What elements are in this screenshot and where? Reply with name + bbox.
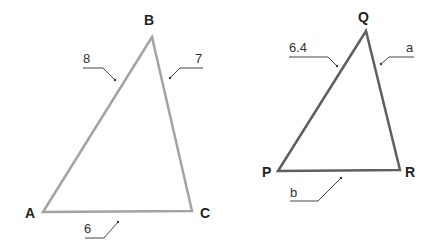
side-qr-leader <box>381 57 414 64</box>
side-ac-label: 6 <box>84 221 91 236</box>
vertex-label-p: P <box>262 164 271 180</box>
vertex-label-a: A <box>25 205 35 221</box>
side-qr-label: a <box>406 40 414 55</box>
side-qr-leader-dot <box>380 63 382 65</box>
side-pq-leader <box>289 57 337 66</box>
side-qr-callout: a <box>380 40 414 65</box>
side-bc-leader <box>170 68 203 78</box>
side-pr-callout: b <box>290 177 342 201</box>
side-ac-callout: 6 <box>84 221 119 238</box>
side-pr-label: b <box>290 185 297 200</box>
side-bc-callout: 7 <box>169 51 203 79</box>
triangle-pqr: P Q R 6.4 a b <box>262 9 415 201</box>
vertex-label-r: R <box>405 164 415 180</box>
side-ab-label: 8 <box>83 51 90 66</box>
vertex-label-q: Q <box>358 9 369 25</box>
side-ac-leader-dot <box>117 221 119 223</box>
side-pr-leader <box>290 178 341 201</box>
side-pr-leader-dot <box>340 177 342 179</box>
vertex-label-c: C <box>200 205 210 221</box>
side-pq-callout: 6.4 <box>289 40 338 67</box>
triangle-abc: A B C 8 7 6 <box>25 12 210 238</box>
side-bc-leader-dot <box>169 77 171 79</box>
triangle-abc-outline <box>43 37 192 212</box>
diagram-canvas: A B C 8 7 6 P Q R 6.4 <box>0 0 436 246</box>
side-ab-leader <box>83 68 115 80</box>
side-pq-label: 6.4 <box>289 40 307 55</box>
vertex-label-b: B <box>144 12 154 28</box>
side-pq-leader-dot <box>336 65 338 67</box>
side-ab-leader-dot <box>114 79 116 81</box>
side-bc-label: 7 <box>195 51 202 66</box>
side-ab-callout: 8 <box>83 51 116 81</box>
